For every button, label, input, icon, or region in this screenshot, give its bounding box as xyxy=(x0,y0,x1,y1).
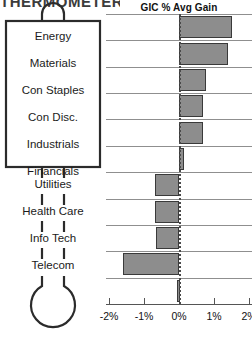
x-tick xyxy=(144,298,145,304)
x-tick-label: 2% xyxy=(241,310,252,322)
bar xyxy=(179,95,203,117)
chart-plot-area xyxy=(106,14,252,304)
sector-label-utilities: Utilities xyxy=(0,178,106,190)
bar xyxy=(179,16,232,38)
x-tick-label: -1% xyxy=(135,310,154,322)
x-axis-line xyxy=(106,304,252,305)
screenshot-root: THERMOMETER Energy Materials Con Staples… xyxy=(0,0,252,338)
sector-label-materials: Materials xyxy=(0,57,106,69)
bar xyxy=(179,43,228,65)
x-tick-label: 1% xyxy=(206,310,221,322)
sector-label-financials: Financials xyxy=(0,165,106,177)
x-tick xyxy=(214,298,215,304)
sector-label-health-care: Health Care xyxy=(0,205,106,217)
sector-label-con-disc: Con Disc. xyxy=(0,111,106,123)
x-tick xyxy=(249,298,250,304)
x-tick-label: -2% xyxy=(100,310,119,322)
sector-label-con-staples: Con Staples xyxy=(0,84,106,96)
bar xyxy=(123,253,179,275)
bar xyxy=(155,174,179,196)
thermometer-diagram: Energy Materials Con Staples Con Disc. I… xyxy=(0,0,106,338)
bar xyxy=(156,227,179,249)
chart-title: GIC % Avg Gain xyxy=(106,2,252,13)
bar xyxy=(179,69,206,91)
bar xyxy=(155,201,179,223)
gic-avg-gain-chart: GIC % Avg Gain -2%-1%0%1%2% xyxy=(106,0,252,338)
sector-label-info-tech: Info Tech xyxy=(0,232,106,244)
sector-label-energy: Energy xyxy=(0,30,106,42)
sector-label-industrials: Industrials xyxy=(0,138,106,150)
x-tick-label: 0% xyxy=(171,310,186,322)
x-tick xyxy=(109,298,110,304)
bar xyxy=(179,122,203,144)
zero-reference-line xyxy=(179,14,181,304)
sector-label-telecom: Telecom xyxy=(0,259,106,271)
